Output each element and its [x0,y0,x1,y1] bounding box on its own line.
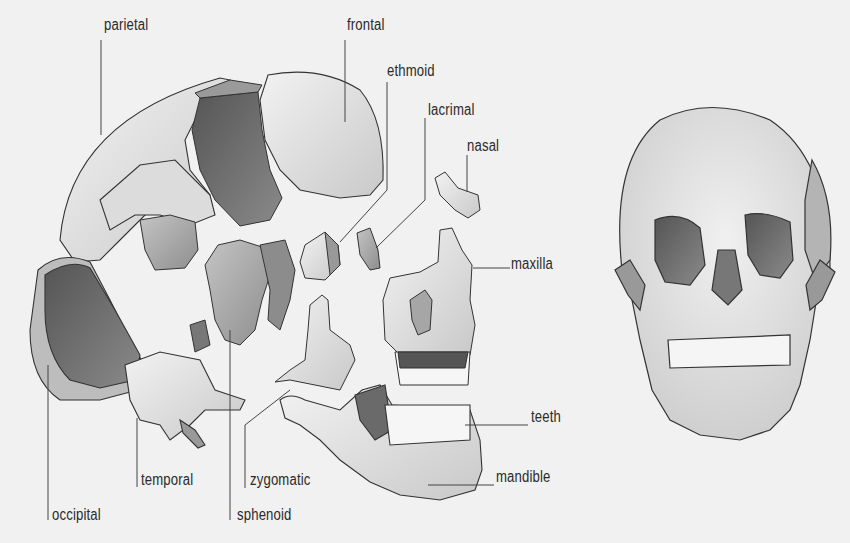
temporal-squama-dark [140,215,198,270]
label-nasal: nasal [467,137,499,155]
maxilla-bone [383,228,475,385]
sphenoid-bone [190,240,295,352]
label-ethmoid: ethmoid [387,62,435,80]
lacrimal-leader [376,118,425,248]
skull-illustration [0,0,850,543]
label-occipital: occipital [52,506,101,524]
label-maxilla: maxilla [511,255,553,273]
label-sphenoid: sphenoid [237,506,292,524]
label-teeth: teeth [531,408,561,426]
label-temporal: temporal [141,471,193,489]
label-lacrimal: lacrimal [428,101,475,119]
label-zygomatic: zygomatic [250,471,311,489]
frontal-bone [260,72,383,198]
lacrimal-bone [357,228,380,270]
skull-diagram: parietal frontal ethmoid lacrimal nasal … [0,0,850,543]
label-parietal: parietal [104,16,148,34]
label-mandible: mandible [496,468,551,486]
temporal-bone [125,352,245,448]
nasal-bone [435,172,480,218]
label-frontal: frontal [347,16,385,34]
ethmoid-bone [300,232,340,280]
frontal-skull [615,108,835,441]
